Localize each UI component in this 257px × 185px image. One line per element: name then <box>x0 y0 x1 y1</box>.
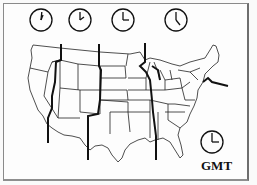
clock-gmt-icon <box>201 131 223 153</box>
clock-pacific-icon <box>30 9 52 31</box>
clock-central-icon <box>112 9 134 31</box>
clock-mountain-icon <box>69 9 91 31</box>
diagram-frame: GMT <box>0 0 257 185</box>
gmt-label: GMT <box>201 158 232 174</box>
clock-eastern-icon <box>165 9 187 31</box>
